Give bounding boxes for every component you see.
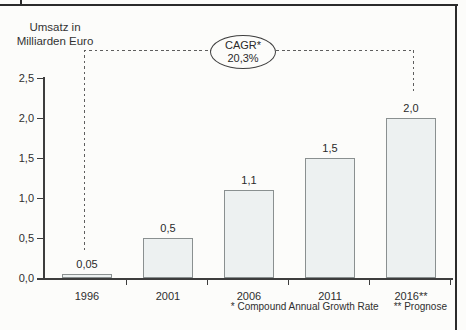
x-tick xyxy=(369,279,370,285)
bar-2011 xyxy=(305,158,355,278)
scanned-chart-page: Umsatz in Milliarden Euro CAGR* 20,3% 2,… xyxy=(0,0,466,330)
y-tick-label: 2,5 xyxy=(4,71,34,85)
footnote-cagr: * Compound Annual Growth Rate xyxy=(231,301,379,312)
bar-2016 xyxy=(386,118,436,278)
bar-group-1996: 0,05 xyxy=(62,258,112,278)
dashed-connector-left-vertical xyxy=(84,50,85,250)
y-tick-label: 0,5 xyxy=(4,231,34,245)
bar-group-2006: 1,1 xyxy=(224,174,274,278)
bar-value-label: 0,5 xyxy=(160,222,175,235)
x-tick xyxy=(126,279,127,285)
x-axis-line xyxy=(37,278,453,280)
y-axis-line xyxy=(43,77,45,280)
x-tick xyxy=(450,279,451,285)
x-tick xyxy=(207,279,208,285)
y-axis-title: Umsatz in Milliarden Euro xyxy=(4,20,106,48)
bar-value-label: 2,0 xyxy=(403,102,418,115)
y-tick-label: 2,0 xyxy=(4,111,34,125)
y-tick-label: 0,0 xyxy=(4,271,34,285)
y-tick-0-5 xyxy=(37,238,44,239)
y-axis-title-line1: Umsatz in xyxy=(4,20,106,34)
bar-2001 xyxy=(143,238,193,278)
dashed-connector-right-vertical xyxy=(413,50,414,92)
bar-value-label: 1,5 xyxy=(322,142,337,155)
bar-value-label: 0,05 xyxy=(76,258,97,271)
footnote-prognose: ** Prognose xyxy=(394,301,447,312)
y-tick-2-5 xyxy=(37,78,44,79)
bar-group-2011: 1,5 xyxy=(305,142,355,278)
y-tick-1-0 xyxy=(37,198,44,199)
cagr-annotation-ellipse: CAGR* 20,3% xyxy=(210,35,276,69)
bar-2006 xyxy=(224,190,274,278)
cagr-value: 20,3% xyxy=(227,52,258,65)
bar-1996 xyxy=(62,274,112,278)
cagr-label: CAGR* xyxy=(225,39,261,52)
page-top-stub-mark xyxy=(20,0,22,5)
y-axis-title-line2: Milliarden Euro xyxy=(4,34,106,48)
page-right-rule xyxy=(455,4,457,330)
x-category-label: 1996 xyxy=(55,290,119,302)
y-tick-label: 1,0 xyxy=(4,191,34,205)
bar-group-2016: 2,0 xyxy=(386,102,436,278)
y-tick-1-5 xyxy=(37,158,44,159)
bar-value-label: 1,1 xyxy=(241,174,256,187)
footnotes: * Compound Annual Growth Rate ** Prognos… xyxy=(231,301,447,312)
y-tick-2-0 xyxy=(37,118,44,119)
x-category-label: 2001 xyxy=(136,290,200,302)
bar-group-2001: 0,5 xyxy=(143,222,193,278)
x-tick xyxy=(288,279,289,285)
y-tick-label: 1,5 xyxy=(4,151,34,165)
page-top-rule xyxy=(0,4,458,6)
